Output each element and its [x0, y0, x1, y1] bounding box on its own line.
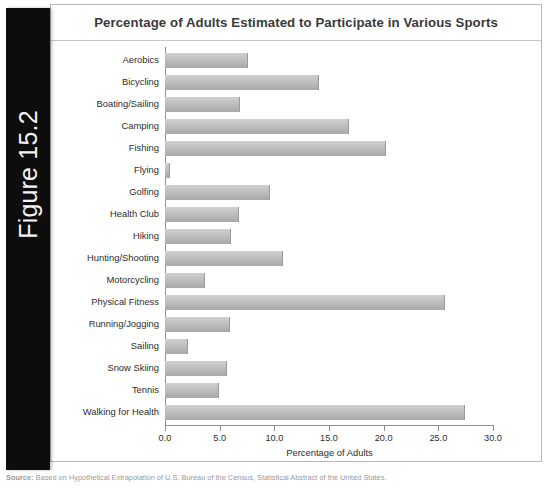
bar [165, 141, 386, 156]
bar [165, 163, 170, 178]
bar-row: Flying [165, 163, 493, 178]
bar [165, 229, 231, 244]
x-axis-tick-label: 10.0 [265, 433, 283, 443]
bar [165, 361, 227, 376]
bar-row: Camping [165, 119, 493, 134]
bar [165, 273, 205, 288]
category-label: Hiking [133, 231, 165, 240]
bar-row: Walking for Health [165, 405, 493, 420]
category-label: Motorcycling [106, 275, 165, 284]
bar-row: Health Club [165, 207, 493, 222]
category-label: Health Club [110, 209, 165, 218]
chart-title: Percentage of Adults Estimated to Partic… [94, 15, 498, 30]
bar [165, 339, 188, 354]
x-axis-tick [493, 426, 494, 431]
category-label: Camping [121, 121, 165, 130]
x-axis-tick [165, 426, 166, 431]
x-axis-tick [438, 426, 439, 431]
category-label: Sailing [131, 341, 165, 350]
category-label: Aerobics [123, 55, 165, 64]
bar-row: Hunting/Shooting [165, 251, 493, 266]
bar-row: Boating/Sailing [165, 97, 493, 112]
bar-row: Bicycling [165, 75, 493, 90]
bar [165, 53, 248, 68]
category-label: Running/Jogging [89, 319, 165, 328]
bar [165, 119, 349, 134]
bar-row: Snow Skiing [165, 361, 493, 376]
bar [165, 383, 219, 398]
bar [165, 75, 319, 90]
category-label: Flying [134, 165, 165, 174]
bar-row: Fishing [165, 141, 493, 156]
plot-area: AerobicsBicyclingBoating/SailingCampingF… [51, 41, 541, 461]
category-label: Physical Fitness [91, 297, 165, 306]
bars-container: AerobicsBicyclingBoating/SailingCampingF… [165, 49, 493, 423]
x-axis-title: Percentage of Adults [165, 447, 494, 458]
bar-row: Running/Jogging [165, 317, 493, 332]
bar-row: Sailing [165, 339, 493, 354]
category-label: Tennis [132, 385, 165, 394]
bar-row: Tennis [165, 383, 493, 398]
chart-title-band: Percentage of Adults Estimated to Partic… [51, 5, 541, 41]
x-axis-tick-label: 15.0 [320, 433, 338, 443]
x-axis-tick-label: 30.0 [484, 433, 502, 443]
bar [165, 251, 283, 266]
bar-row: Hiking [165, 229, 493, 244]
bar-row: Physical Fitness [165, 295, 493, 310]
source-label: Source: [6, 474, 34, 482]
bar [165, 185, 270, 200]
bar [165, 405, 465, 420]
category-label: Golfing [129, 187, 165, 196]
source-note: Source: Based on Hypothetical Extrapolat… [6, 474, 546, 482]
chart-panel: Percentage of Adults Estimated to Partic… [50, 4, 542, 462]
category-label: Hunting/Shooting [87, 253, 165, 262]
category-label: Fishing [129, 143, 165, 152]
bar [165, 317, 230, 332]
bar-row: Motorcycling [165, 273, 493, 288]
bar [165, 207, 239, 222]
figure-number-label: Figure 15.2 [14, 110, 43, 239]
category-label: Snow Skiing [107, 363, 165, 372]
x-axis-tick-label: 5.0 [213, 433, 226, 443]
bar [165, 295, 445, 310]
category-label: Walking for Health [83, 407, 165, 416]
figure-number-tab: Figure 15.2 [6, 8, 50, 470]
bar-row: Golfing [165, 185, 493, 200]
x-axis-tick-label: 25.0 [429, 433, 447, 443]
bar-row: Aerobics [165, 53, 493, 68]
x-axis-tick-label: 0.0 [159, 433, 172, 443]
x-axis-tick [220, 426, 221, 431]
category-label: Bicycling [122, 77, 165, 86]
source-text: Based on Hypothetical Extrapolation of U… [36, 474, 387, 482]
x-axis-tick [384, 426, 385, 431]
bar [165, 97, 240, 112]
x-axis-tick [274, 426, 275, 431]
x-axis-tick [329, 426, 330, 431]
x-axis-tick-label: 20.0 [375, 433, 393, 443]
category-label: Boating/Sailing [96, 99, 165, 108]
